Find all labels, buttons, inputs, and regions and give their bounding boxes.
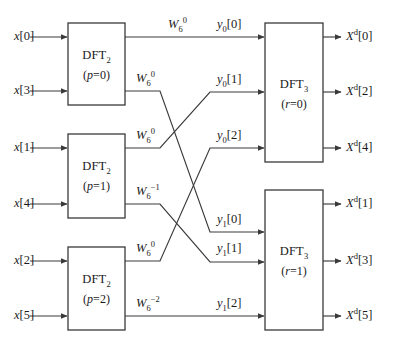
intermediate-label-y01: y0[1] bbox=[217, 73, 241, 86]
input-label-x3: x[3] bbox=[14, 84, 34, 97]
dft3-r0-labels: DFT3 (r=0) bbox=[265, 23, 323, 162]
dft2-p1-labels: DFT2 (p=1) bbox=[68, 134, 125, 218]
input-arrows bbox=[30, 37, 67, 316]
intermediate-label-y11: y1[1] bbox=[217, 242, 241, 255]
dft3-r1-labels: DFT3 (r=1) bbox=[265, 190, 323, 330]
output-label-Xd3: Xd[3] bbox=[346, 254, 372, 267]
twiddle-label-d: W6−1 bbox=[136, 185, 160, 198]
input-label-x2: x[2] bbox=[14, 254, 34, 267]
intermediate-label-y12: y1[2] bbox=[217, 297, 241, 310]
intermediate-label-y02: y0[2] bbox=[217, 129, 241, 142]
dft-flow-graph-diagram: x[0] x[3] x[1] x[4] x[2] x[5] Xd[0] Xd[2… bbox=[0, 0, 398, 346]
dft3-r1-title: DFT3 bbox=[265, 244, 323, 259]
dft2-p0-param: (p=0) bbox=[68, 68, 125, 83]
wire-p0out1-to-y10 bbox=[125, 91, 264, 232]
flow-graph-canvas bbox=[0, 0, 398, 346]
twiddle-label-e: W60 bbox=[136, 242, 155, 255]
dft2-p0-title: DFT2 bbox=[68, 48, 125, 63]
output-label-Xd5: Xd[5] bbox=[346, 309, 372, 322]
dft2-p2-param: (p=2) bbox=[68, 292, 125, 307]
output-arrows bbox=[323, 37, 341, 316]
twiddle-label-a: W60 bbox=[168, 18, 187, 31]
dft2-p0-labels: DFT2 (p=0) bbox=[68, 23, 125, 105]
input-label-x1: x[1] bbox=[14, 141, 34, 154]
dft2-p1-title: DFT2 bbox=[68, 159, 125, 174]
output-label-Xd1: Xd[1] bbox=[346, 197, 372, 210]
output-label-Xd2: Xd[2] bbox=[346, 85, 372, 98]
dft2-p2-labels: DFT2 (p=2) bbox=[68, 247, 125, 330]
input-label-x0: x[0] bbox=[14, 30, 34, 43]
input-label-x4: x[4] bbox=[14, 197, 34, 210]
dft2-p1-param: (p=1) bbox=[68, 179, 125, 194]
twiddle-label-c: W60 bbox=[136, 129, 155, 142]
twiddle-label-f: W6−2 bbox=[136, 297, 160, 310]
dft3-r0-title: DFT3 bbox=[265, 77, 323, 92]
output-label-Xd4: Xd[4] bbox=[346, 141, 372, 154]
output-label-Xd0: Xd[0] bbox=[346, 30, 372, 43]
dft2-p2-title: DFT2 bbox=[68, 272, 125, 287]
input-label-x5: x[5] bbox=[14, 309, 34, 322]
intermediate-label-y00: y0[0] bbox=[217, 18, 241, 31]
dft3-r1-param: (r=1) bbox=[265, 264, 323, 279]
intermediate-label-y10: y1[0] bbox=[217, 213, 241, 226]
twiddle-label-b: W60 bbox=[136, 72, 155, 85]
dft3-r0-param: (r=0) bbox=[265, 97, 323, 112]
